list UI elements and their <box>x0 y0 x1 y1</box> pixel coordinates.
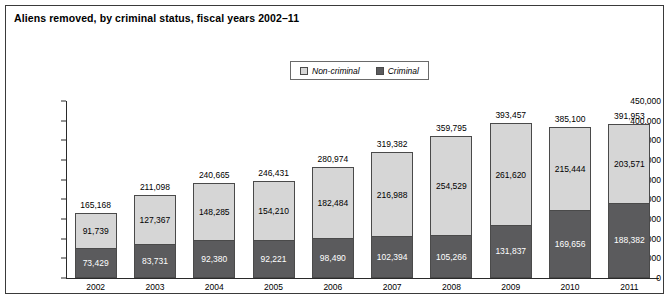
bar-segment-criminal[interactable]: 131,837 <box>491 226 531 277</box>
bar-total-label: 240,665 <box>185 170 243 180</box>
bar-segment-non-criminal[interactable]: 254,529 <box>431 137 471 236</box>
bar-stack[interactable]: 182,48498,490 <box>312 167 354 278</box>
bar-total-label: 385,100 <box>541 114 599 124</box>
bar-segment-criminal[interactable]: 98,490 <box>313 239 353 277</box>
x-axis-labels: 2002200320042005200620072008200920102011 <box>66 282 659 298</box>
bar-segment-value: 92,221 <box>261 254 287 264</box>
bar-total-label: 211,098 <box>126 182 184 192</box>
bar-segment-value: 154,210 <box>258 206 289 216</box>
bar-group[interactable]: 254,529105,266359,795 <box>430 101 472 278</box>
bar-segment-value: 188,382 <box>614 235 645 245</box>
bar-segment-criminal[interactable]: 92,380 <box>194 241 234 277</box>
bar-segment-value: 216,988 <box>377 190 408 200</box>
bar-segment-non-criminal[interactable]: 127,367 <box>135 196 175 245</box>
bar-segment-value: 102,394 <box>377 252 408 262</box>
bar-segment-criminal[interactable]: 105,266 <box>431 236 471 277</box>
bar-segment-value: 105,266 <box>436 252 467 262</box>
bar-segment-value: 261,620 <box>495 170 526 180</box>
bar-segment-non-criminal[interactable]: 203,571 <box>609 125 649 204</box>
legend-item-non-criminal: Non-criminal <box>300 66 360 76</box>
x-axis-label: 2011 <box>600 282 659 292</box>
bar-segment-value: 83,731 <box>142 256 168 266</box>
bar-stack[interactable]: 203,571188,382 <box>608 124 650 278</box>
legend-item-criminal: Criminal <box>376 66 419 76</box>
x-axis-label: 2006 <box>303 282 362 292</box>
legend-label-non-criminal: Non-criminal <box>312 66 360 76</box>
bar-segment-criminal[interactable]: 83,731 <box>135 245 175 277</box>
chart-figure: Aliens removed, by criminal status, fisc… <box>0 0 669 299</box>
bar-segment-value: 215,444 <box>555 164 586 174</box>
chart-legend: Non-criminal Criminal <box>290 61 429 80</box>
bar-group[interactable]: 127,36783,731211,098 <box>134 101 176 278</box>
bar-segment-value: 169,656 <box>555 239 586 249</box>
bar-group[interactable]: 154,21092,221246,431 <box>253 101 295 278</box>
legend-swatch-icon <box>376 67 384 75</box>
bar-stack[interactable]: 91,73973,429 <box>75 213 117 278</box>
bar-total-label: 280,974 <box>304 154 362 164</box>
x-axis-label: 2005 <box>244 282 303 292</box>
bar-group[interactable]: 215,444169,656385,100 <box>549 101 591 278</box>
x-axis-label: 2010 <box>540 282 599 292</box>
bar-segment-value: 127,367 <box>140 215 171 225</box>
page-title: Aliens removed, by criminal status, fisc… <box>14 12 299 24</box>
bar-stack[interactable]: 127,36783,731 <box>134 195 176 278</box>
legend-label-criminal: Criminal <box>388 66 419 76</box>
bar-segment-non-criminal[interactable]: 215,444 <box>550 128 590 212</box>
bar-group[interactable]: 261,620131,837393,457 <box>490 101 532 278</box>
legend-swatch-icon <box>300 67 308 75</box>
bar-segment-value: 203,571 <box>614 159 645 169</box>
bar-total-label: 165,168 <box>67 200 125 210</box>
bar-total-label: 359,795 <box>422 123 480 133</box>
bar-segment-value: 131,837 <box>495 246 526 256</box>
bar-segment-non-criminal[interactable]: 182,484 <box>313 168 353 238</box>
bar-group[interactable]: 203,571188,382391,953 <box>608 101 650 278</box>
bar-segment-value: 148,285 <box>199 207 230 217</box>
bar-segment-value: 91,739 <box>83 226 109 236</box>
bar-segment-value: 182,484 <box>317 198 348 208</box>
bar-segment-value: 92,380 <box>201 254 227 264</box>
bar-stack[interactable]: 254,529105,266 <box>430 136 472 278</box>
bar-segment-criminal[interactable]: 102,394 <box>372 237 412 277</box>
bar-total-label: 391,953 <box>600 111 658 121</box>
x-axis-label: 2004 <box>185 282 244 292</box>
bar-segment-non-criminal[interactable]: 154,210 <box>254 182 294 241</box>
x-axis-label: 2002 <box>66 282 125 292</box>
bar-stack[interactable]: 148,28592,380 <box>193 183 235 278</box>
bar-group[interactable]: 216,988102,394319,382 <box>371 101 413 278</box>
bar-group[interactable]: 148,28592,380240,665 <box>193 101 235 278</box>
bar-stack[interactable]: 261,620131,837 <box>490 123 532 278</box>
bar-segment-non-criminal[interactable]: 216,988 <box>372 153 412 237</box>
x-axis-label: 2007 <box>363 282 422 292</box>
x-axis-label: 2009 <box>481 282 540 292</box>
bar-segment-criminal[interactable]: 188,382 <box>609 204 649 277</box>
bar-series-container: 91,73973,429165,168127,36783,731211,0981… <box>66 101 659 278</box>
bar-segment-non-criminal[interactable]: 91,739 <box>76 214 116 249</box>
bar-segment-criminal[interactable]: 92,221 <box>254 241 294 277</box>
bar-stack[interactable]: 215,444169,656 <box>549 127 591 278</box>
x-axis-line <box>66 278 659 279</box>
bar-group[interactable]: 91,73973,429165,168 <box>75 101 117 278</box>
x-axis-label: 2008 <box>422 282 481 292</box>
bar-segment-non-criminal[interactable]: 261,620 <box>491 124 531 226</box>
bar-stack[interactable]: 216,988102,394 <box>371 152 413 278</box>
bar-segment-criminal[interactable]: 169,656 <box>550 211 590 277</box>
bar-stack[interactable]: 154,21092,221 <box>253 181 295 278</box>
bar-total-label: 319,382 <box>363 139 421 149</box>
bar-segment-value: 73,429 <box>83 258 109 268</box>
bar-segment-non-criminal[interactable]: 148,285 <box>194 184 234 241</box>
bar-segment-value: 98,490 <box>320 253 346 263</box>
bar-segment-value: 254,529 <box>436 181 467 191</box>
x-axis-label: 2003 <box>125 282 184 292</box>
bar-segment-criminal[interactable]: 73,429 <box>76 249 116 277</box>
bar-total-label: 246,431 <box>245 168 303 178</box>
bar-total-label: 393,457 <box>482 110 540 120</box>
bar-group[interactable]: 182,48498,490280,974 <box>312 101 354 278</box>
